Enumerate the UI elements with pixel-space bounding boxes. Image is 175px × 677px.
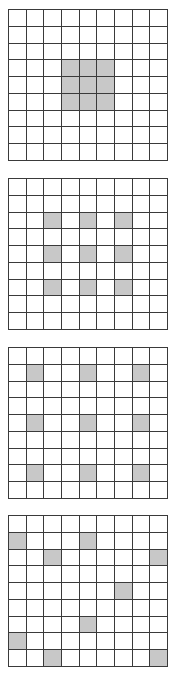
grid-cell xyxy=(44,313,62,330)
grid-cell-shaded xyxy=(133,365,151,382)
grid-cell xyxy=(62,398,80,415)
grid-cell xyxy=(27,60,45,77)
grid-cell xyxy=(9,449,27,466)
grid-cell xyxy=(115,533,133,550)
grid-cell xyxy=(115,465,133,482)
grid-cell xyxy=(62,550,80,567)
grid-cell-shaded xyxy=(80,465,98,482)
grid-cell xyxy=(115,60,133,77)
grid-cell xyxy=(27,296,45,313)
grid-cell xyxy=(150,111,168,128)
grid-cell xyxy=(9,566,27,583)
grid-cell-shaded xyxy=(27,415,45,432)
grid-cell xyxy=(150,196,168,213)
grid-cell xyxy=(115,77,133,94)
grid-cell-shaded xyxy=(115,246,133,263)
grid-cell xyxy=(9,229,27,246)
grid-cell xyxy=(150,246,168,263)
grid-cell xyxy=(150,600,168,617)
grid-cell-shaded xyxy=(62,94,80,111)
grid-cell xyxy=(97,365,115,382)
grid-cell xyxy=(150,533,168,550)
grid-cell xyxy=(150,566,168,583)
grid-cell xyxy=(97,196,115,213)
grid-cell xyxy=(44,533,62,550)
grid-cell xyxy=(62,415,80,432)
grid-cell xyxy=(150,482,168,499)
grid-cell xyxy=(150,348,168,365)
grid-cell xyxy=(133,650,151,667)
grid-cell xyxy=(9,365,27,382)
grid-cell-shaded xyxy=(133,415,151,432)
grid-cell xyxy=(133,550,151,567)
grid-cell xyxy=(150,263,168,280)
grid-cell xyxy=(44,60,62,77)
grid-cell xyxy=(62,650,80,667)
grid-cell-shaded xyxy=(44,280,62,297)
grid-cell-shaded xyxy=(80,415,98,432)
grid-cell xyxy=(9,196,27,213)
grid-cell xyxy=(80,313,98,330)
grid-cell xyxy=(44,432,62,449)
grid-cell xyxy=(115,566,133,583)
grid-cell xyxy=(62,313,80,330)
grid-cell xyxy=(97,27,115,44)
grid-cell xyxy=(62,600,80,617)
grid-cell xyxy=(44,449,62,466)
grid-cell xyxy=(80,398,98,415)
grid-cell xyxy=(97,600,115,617)
grid-cell xyxy=(9,213,27,230)
grid-cell xyxy=(115,111,133,128)
grid-cell xyxy=(27,449,45,466)
grid-cell xyxy=(115,633,133,650)
grid-cell xyxy=(44,111,62,128)
grid-cell xyxy=(97,550,115,567)
grid-cell xyxy=(115,398,133,415)
grid-cell xyxy=(44,583,62,600)
grid-cell xyxy=(44,465,62,482)
grid-cell xyxy=(115,516,133,533)
grid-cell xyxy=(115,432,133,449)
grid-cell-shaded xyxy=(150,650,168,667)
grid-cell xyxy=(27,229,45,246)
grid-cell xyxy=(115,449,133,466)
grid-cell xyxy=(9,465,27,482)
grid-cell xyxy=(115,382,133,399)
grid-cell xyxy=(150,213,168,230)
grid-cell xyxy=(27,550,45,567)
grid-cell xyxy=(27,196,45,213)
grid-cell xyxy=(9,280,27,297)
grid-cell xyxy=(133,10,151,27)
grid-cell xyxy=(44,516,62,533)
grid-cell xyxy=(9,398,27,415)
grid-cell xyxy=(44,348,62,365)
grid-cell xyxy=(133,263,151,280)
grid-cell xyxy=(115,179,133,196)
grid-cell xyxy=(115,127,133,144)
grid-cell xyxy=(80,44,98,61)
grid-cell xyxy=(115,550,133,567)
grid-cell xyxy=(9,44,27,61)
grid-cell-shaded xyxy=(80,77,98,94)
grid-cell xyxy=(27,127,45,144)
grid-cell xyxy=(115,263,133,280)
grid-cell xyxy=(27,246,45,263)
grid-cell xyxy=(115,27,133,44)
grid-cell xyxy=(44,382,62,399)
grid-cell xyxy=(150,44,168,61)
grid-cell xyxy=(62,263,80,280)
grid-cell xyxy=(27,432,45,449)
grid-cell xyxy=(80,229,98,246)
grid-cell xyxy=(133,617,151,634)
grid-cell xyxy=(150,449,168,466)
grid-cell xyxy=(150,617,168,634)
grid-cell xyxy=(9,600,27,617)
grid-cell xyxy=(44,144,62,161)
grid-cell xyxy=(115,144,133,161)
grid-cell xyxy=(80,432,98,449)
grid-cell xyxy=(27,111,45,128)
grid-cell xyxy=(44,94,62,111)
grid-cell xyxy=(150,94,168,111)
grid-cell xyxy=(150,296,168,313)
grid-cell xyxy=(9,313,27,330)
